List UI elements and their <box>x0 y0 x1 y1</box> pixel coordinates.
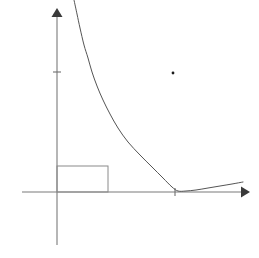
y-axis-arrowhead-icon <box>52 8 63 17</box>
decay-curve-path <box>74 0 243 191</box>
inscribed-rectangle <box>57 166 108 192</box>
coordinate-plot-svg <box>0 0 259 258</box>
figure-canvas <box>0 0 259 258</box>
x-axis-arrowhead-icon <box>241 187 250 198</box>
isolated-point-marker <box>172 72 175 75</box>
